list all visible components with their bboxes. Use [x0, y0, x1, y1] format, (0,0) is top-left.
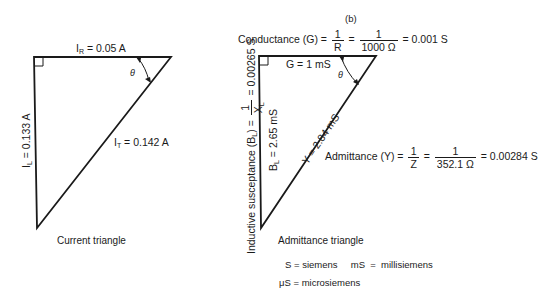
admittance-angle-theta: θ: [338, 71, 343, 80]
legend-units-line2: μS = microsiemens: [279, 278, 360, 288]
susceptance-formula: Inductive susceptance (BL) = 1XL = 0.002…: [239, 39, 266, 254]
it-label: IT = 0.142 A: [114, 137, 169, 149]
panel-label-b: (b): [345, 14, 357, 24]
il-label: IL = 0.133 A: [21, 114, 33, 168]
bl-label: BL = 2.65 mS: [268, 109, 280, 171]
current-triangle-caption: Current triangle: [57, 236, 126, 246]
legend-units-line1: S = siemens mS = millisiemens: [285, 260, 433, 270]
g-label: G = 1 mS: [286, 59, 331, 70]
conductance-formula: Conductance (G) = 1R = 11000 Ω = 0.001 S: [238, 28, 448, 53]
admittance-triangle-caption: Admittance triangle: [278, 236, 364, 246]
admittance-formula: Admittance (Y) = 1Z = 1352.1 Ω = 0.00284…: [325, 145, 538, 170]
current-angle-theta: θ: [130, 69, 135, 78]
ir-label: IR = 0.05 A: [76, 43, 126, 55]
